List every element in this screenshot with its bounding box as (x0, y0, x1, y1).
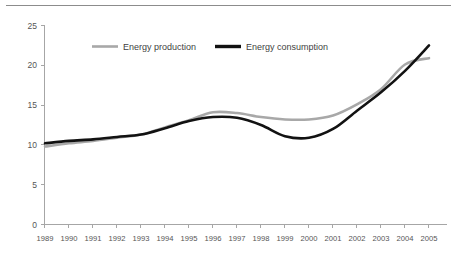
y-tick-label: 0 (32, 220, 37, 230)
line-chart-svg: 25 20 15 10 5 0 (0, 0, 457, 259)
x-tick-label: 1995 (181, 234, 198, 243)
x-tick-label: 1998 (253, 234, 270, 243)
y-tick-label: 10 (28, 140, 38, 150)
y-tick-label: 25 (28, 21, 38, 31)
series-group (45, 45, 429, 146)
y-tick-labels: 25 20 15 10 5 0 (28, 21, 38, 230)
x-tick-label: 1990 (61, 234, 78, 243)
legend-label-production: Energy production (123, 42, 196, 52)
x-tick-labels: 1989 1990 1991 1992 1993 1994 1995 1996 … (37, 234, 438, 243)
x-tick-label: 2004 (397, 234, 414, 243)
x-tick-label: 2002 (349, 234, 366, 243)
chart-figure: 25 20 15 10 5 0 (0, 0, 457, 259)
series-line-energy-consumption (45, 45, 429, 143)
x-tick-label: 1994 (157, 234, 174, 243)
series-line-energy-production (45, 58, 429, 146)
y-tick-label: 5 (32, 180, 37, 190)
x-tick-label: 1992 (109, 234, 126, 243)
x-tick-label: 1991 (85, 234, 102, 243)
x-tick-label: 2005 (421, 234, 438, 243)
x-tick-label: 1997 (229, 234, 246, 243)
x-tick-label: 1993 (133, 234, 150, 243)
x-tick-label: 2001 (325, 234, 342, 243)
x-tick-label: 2003 (373, 234, 390, 243)
legend-label-consumption: Energy consumption (246, 42, 328, 52)
y-tick-marks (41, 26, 45, 225)
x-tick-label: 1999 (277, 234, 294, 243)
x-tick-label: 1996 (205, 234, 222, 243)
y-tick-label: 15 (28, 100, 38, 110)
x-tick-label: 2000 (301, 234, 318, 243)
x-tick-label: 1989 (37, 234, 54, 243)
y-tick-label: 20 (28, 60, 38, 70)
x-tick-marks (45, 225, 429, 229)
chart-legend: Energy production Energy consumption (92, 42, 328, 52)
chart-plot-area: 25 20 15 10 5 0 (0, 0, 457, 259)
